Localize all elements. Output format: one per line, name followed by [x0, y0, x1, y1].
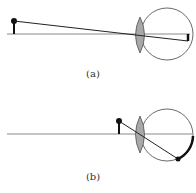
eye-diagram — [0, 0, 196, 193]
image-point — [176, 157, 181, 162]
retina-image-arc — [178, 136, 193, 159]
panel-a — [7, 8, 193, 60]
panel-b — [7, 109, 193, 162]
panel-b-label: (b) — [78, 171, 108, 182]
light-ray — [14, 21, 188, 41]
panel-a-label: (a) — [78, 68, 108, 79]
